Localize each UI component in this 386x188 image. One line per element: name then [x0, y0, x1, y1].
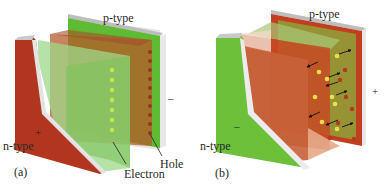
- n-side-sign-a: +: [35, 126, 41, 138]
- n-type-label-b: n-type: [200, 139, 231, 153]
- panel-a: p-type n-type Electron Hole (a) + –: [3, 11, 183, 181]
- panel-a-caption: (a): [14, 165, 27, 179]
- hole-dot: [148, 95, 152, 99]
- hole-dot: [148, 113, 152, 117]
- hole-dot: [328, 136, 332, 140]
- hole-dot: [350, 107, 354, 111]
- electron-dot: [317, 70, 322, 75]
- p-side-sign-b: +: [372, 85, 378, 97]
- electron-dot: [325, 77, 330, 82]
- electron-dot: [110, 78, 114, 82]
- electron-dot: [333, 102, 338, 107]
- electron-dot: [110, 108, 114, 112]
- panel-b-caption: (b): [215, 166, 229, 180]
- p-type-label-a: p-type: [103, 11, 134, 25]
- p-side-sign-a: –: [167, 92, 174, 104]
- electron-label: Electron: [124, 167, 165, 181]
- hole-dot: [148, 59, 152, 63]
- hole-dot: [148, 122, 152, 126]
- hole-dot: [343, 68, 347, 72]
- hole-label: Hole: [160, 157, 183, 171]
- electron-dot: [110, 68, 114, 72]
- electron-dot: [110, 118, 114, 122]
- electron-dot: [320, 120, 325, 125]
- electron-dot: [110, 88, 114, 92]
- electron-dot: [335, 127, 340, 132]
- hole-dot: [338, 78, 342, 82]
- hole-dot: [336, 121, 340, 125]
- hole-dot: [344, 95, 348, 99]
- panel-b: p-type n-type (b) – +: [200, 7, 378, 180]
- p-type-label-b: p-type: [309, 7, 340, 21]
- electron-dot: [110, 128, 114, 132]
- hole-dot: [148, 68, 152, 72]
- hole-dot: [148, 86, 152, 90]
- electron-dot: [330, 95, 335, 100]
- pn-junction-diagram: p-type n-type Electron Hole (a) + –: [0, 0, 386, 188]
- n-type-label-a: n-type: [3, 139, 34, 153]
- hole-dot: [148, 50, 152, 54]
- n-side-sign-b: –: [233, 120, 240, 132]
- hole-dot: [148, 77, 152, 81]
- hole-dot: [148, 104, 152, 108]
- electron-dot: [335, 54, 340, 59]
- electron-dot: [313, 95, 318, 100]
- hole-dot: [352, 137, 356, 141]
- electron-dot: [110, 98, 114, 102]
